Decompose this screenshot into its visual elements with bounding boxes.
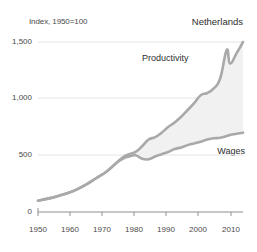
area-productivity-wages-gap xyxy=(38,42,243,201)
line-wages xyxy=(38,133,243,201)
chart-container: Index, 1950=100 Netherlands Productivity… xyxy=(0,0,257,252)
series-fill-group xyxy=(38,42,243,201)
axis-group xyxy=(38,208,243,216)
chart-plot-area xyxy=(0,0,257,252)
